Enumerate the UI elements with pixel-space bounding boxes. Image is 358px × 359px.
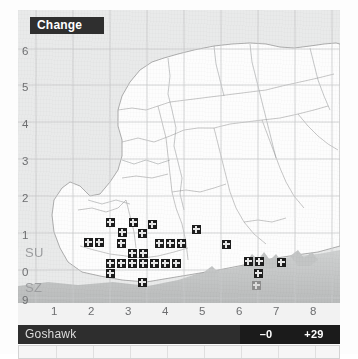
plus-icon	[95, 238, 104, 247]
x-axis-label-2: 2	[88, 306, 94, 318]
species-footer-bar: Goshawk –0 0 +29	[18, 325, 340, 344]
map-marker-present	[106, 269, 115, 278]
plus-icon	[84, 238, 93, 247]
plus-icon	[129, 218, 138, 227]
map-marker-present	[222, 240, 231, 249]
map-marker-present	[255, 257, 264, 266]
y-axis-label-6: 6	[22, 46, 29, 58]
plus-icon	[117, 259, 126, 268]
map-marker-present	[161, 259, 170, 268]
map-marker-present	[148, 220, 157, 229]
plus-icon	[128, 259, 137, 268]
map-marker-present	[139, 249, 148, 258]
plus-icon	[244, 257, 253, 266]
plus-icon	[128, 249, 137, 258]
map-marker-present	[244, 257, 253, 266]
plus-icon	[172, 259, 181, 268]
y-axis-label-0: 0	[22, 267, 29, 279]
distribution-map-panel: Change 6 5 4 3 2 1 0 9 SU SZ 1 2 3 4 5 6…	[18, 10, 340, 341]
map-marker-present	[128, 259, 137, 268]
plus-icon	[139, 259, 148, 268]
species-name: Goshawk	[25, 325, 76, 344]
x-axis-label-4: 4	[162, 306, 168, 318]
plus-icon	[155, 239, 164, 248]
plus-icon	[118, 228, 127, 237]
plus-icon	[177, 239, 186, 248]
y-axis-label-5: 5	[22, 82, 29, 94]
x-axis-label-5: 5	[199, 306, 205, 318]
plus-icon	[117, 239, 126, 248]
map-marker-present	[150, 259, 159, 268]
map-marker-present	[84, 238, 93, 247]
next-panel-preview	[18, 345, 340, 359]
plus-icon	[106, 218, 115, 227]
plus-icon	[106, 259, 115, 268]
map-marker-present	[155, 239, 164, 248]
map-marker-present	[117, 239, 126, 248]
plus-icon	[255, 257, 264, 266]
map-marker-present	[95, 238, 104, 247]
map-marker-present	[128, 249, 137, 258]
y-axis-label-1: 1	[22, 230, 29, 242]
x-axis-label-1: 1	[51, 306, 57, 318]
map-marker-present	[106, 218, 115, 227]
plus-icon	[166, 239, 175, 248]
y-axis-label-4: 4	[22, 119, 29, 131]
map-marker-present	[166, 239, 175, 248]
map-marker-present	[106, 259, 115, 268]
map-marker-present	[138, 229, 147, 238]
map-canvas	[18, 10, 340, 303]
plus-icon	[254, 269, 263, 278]
grid-square-label-sz: SZ	[25, 281, 42, 294]
y-axis-label-9: 9	[22, 295, 29, 307]
map-marker-present	[172, 259, 181, 268]
plus-icon	[277, 258, 286, 267]
plus-icon	[139, 249, 148, 258]
x-axis-label-8: 8	[310, 306, 316, 318]
plus-icon	[192, 225, 201, 234]
map-marker-faded	[252, 281, 261, 290]
map-marker-present	[118, 228, 127, 237]
x-axis-label-6: 6	[236, 306, 242, 318]
map-marker-present	[139, 259, 148, 268]
plus-icon	[138, 278, 147, 287]
stat-losses: –0	[240, 325, 292, 344]
y-axis-label-2: 2	[22, 193, 29, 205]
map-marker-present	[129, 218, 138, 227]
map-marker-present	[138, 278, 147, 287]
map-marker-present	[192, 225, 201, 234]
x-axis-label-3: 3	[125, 306, 131, 318]
x-axis-label-7: 7	[273, 306, 279, 318]
plus-icon	[148, 220, 157, 229]
plus-icon	[138, 229, 147, 238]
map-marker-present	[254, 269, 263, 278]
map-marker-present	[177, 239, 186, 248]
plus-icon	[150, 259, 159, 268]
stat-gains: +29	[288, 325, 340, 344]
map-marker-present	[117, 259, 126, 268]
plus-icon	[252, 281, 261, 290]
plus-icon	[222, 240, 231, 249]
map-marker-present	[277, 258, 286, 267]
grid-square-label-su: SU	[25, 246, 44, 259]
y-axis-label-3: 3	[22, 156, 29, 168]
map-title-chip: Change	[30, 17, 104, 34]
plus-icon	[161, 259, 170, 268]
plus-icon	[106, 269, 115, 278]
